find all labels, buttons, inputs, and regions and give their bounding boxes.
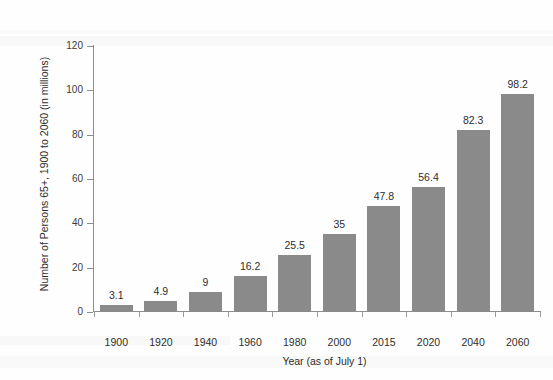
y-tick-label: 60: [51, 174, 83, 184]
x-tick: [362, 312, 363, 317]
x-tick: [317, 312, 318, 317]
x-tick: [228, 312, 229, 317]
y-tick-20: [87, 268, 93, 269]
bar-value-label: 56.4: [399, 172, 459, 183]
scan-artifact-band: [0, 30, 553, 34]
y-tick-label-wrap: 80: [51, 130, 83, 140]
x-tick: [540, 312, 541, 317]
x-axis-title: Year (as of July 1): [0, 355, 553, 367]
y-tick-label-wrap: 40: [51, 218, 83, 228]
bar[interactable]: [501, 94, 534, 312]
bar-value-label: 98.2: [488, 79, 548, 90]
x-category-label: 2060: [488, 337, 548, 348]
bar-value-label: 16.2: [220, 261, 280, 272]
bar-value-label: 9: [176, 277, 236, 288]
y-tick-60: [87, 179, 93, 180]
x-tick: [272, 312, 273, 317]
y-tick-label-wrap: 100: [51, 85, 83, 95]
x-tick: [139, 312, 140, 317]
y-tick-label: 80: [51, 130, 83, 140]
x-tick: [495, 312, 496, 317]
bar[interactable]: [144, 301, 177, 312]
y-tick-40: [87, 223, 93, 224]
bar-value-label: 82.3: [443, 115, 503, 126]
x-tick: [94, 312, 95, 317]
bar[interactable]: [457, 130, 490, 312]
bar[interactable]: [367, 206, 400, 312]
y-tick-label-wrap: 60: [51, 174, 83, 184]
y-tick-80: [87, 135, 93, 136]
y-tick-120: [87, 46, 93, 47]
x-axis-title-text: Year (as of July 1): [186, 355, 366, 367]
y-tick-label: 100: [51, 85, 83, 95]
y-axis-title: Number of Persons 65+, 1900 to 2060 (in …: [38, 34, 50, 314]
plot-area: [94, 46, 540, 312]
bar-value-label: 47.8: [354, 191, 414, 202]
y-tick-label: 0: [51, 307, 83, 317]
bar[interactable]: [278, 255, 311, 312]
bar[interactable]: [412, 187, 445, 312]
y-tick-label: 120: [51, 41, 83, 51]
bar[interactable]: [100, 305, 133, 312]
y-tick-0: [87, 312, 93, 313]
y-tick-100: [87, 90, 93, 91]
chart-page: 020406080100120 3.14.9916.225.53547.856.…: [0, 0, 553, 380]
y-tick-label-wrap: 20: [51, 263, 83, 273]
bar[interactable]: [189, 292, 222, 312]
bar[interactable]: [323, 234, 356, 312]
x-tick: [451, 312, 452, 317]
y-tick-label-wrap: 0: [51, 307, 83, 317]
x-tick: [183, 312, 184, 317]
x-tick: [406, 312, 407, 317]
bar-value-label: 35: [309, 219, 369, 230]
y-tick-label: 20: [51, 263, 83, 273]
bar[interactable]: [234, 276, 267, 312]
y-tick-label: 40: [51, 218, 83, 228]
y-tick-label-wrap: 120: [51, 41, 83, 51]
bar-value-label: 25.5: [265, 240, 325, 251]
